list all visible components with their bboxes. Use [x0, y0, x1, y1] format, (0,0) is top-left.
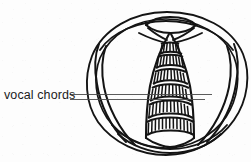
diagram-canvas: vocal chords	[0, 0, 251, 162]
vestibular-folds	[139, 28, 202, 43]
cartilage-ring-5	[148, 101, 193, 119]
cartilage-ring-3	[153, 69, 188, 84]
lower-throat-arcs	[112, 125, 227, 153]
vocal-chords-label: vocal chords	[4, 88, 75, 102]
throat-anatomy-illustration	[0, 0, 251, 162]
cartilage-ring-2	[156, 55, 185, 68]
cartilage-ring-4	[150, 84, 191, 101]
cartilage-ring-6	[147, 117, 194, 135]
